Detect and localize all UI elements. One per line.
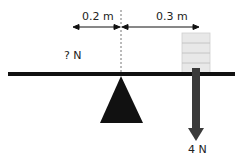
force-arrow-down — [188, 68, 204, 141]
distance-arrow-right — [122, 25, 199, 30]
unknown-force-label: ? N — [64, 49, 82, 62]
lever-diagram — [0, 0, 241, 163]
known-force-label: 4 N — [188, 143, 207, 156]
fulcrum-triangle — [100, 76, 143, 123]
lever-beam — [8, 72, 235, 76]
distance-arrow-left — [73, 25, 120, 30]
weights-stack — [182, 33, 210, 73]
distance-left-label: 0.2 m — [82, 10, 114, 23]
distance-right-label: 0.3 m — [156, 10, 188, 23]
